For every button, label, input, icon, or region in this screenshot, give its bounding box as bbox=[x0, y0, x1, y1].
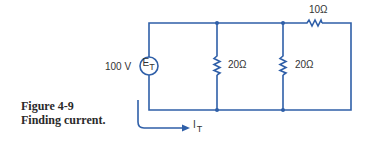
junction-dot-bottom-2 bbox=[281, 108, 285, 112]
current-label: IT bbox=[193, 119, 203, 134]
figure-caption: Figure 4-9 Finding current. bbox=[21, 99, 105, 127]
source-symbol: ET bbox=[143, 57, 156, 72]
resistor-r2-symbol bbox=[280, 54, 286, 75]
resistor-r1-symbol bbox=[214, 54, 220, 75]
resistor-r3-label: 10Ω bbox=[309, 4, 328, 15]
junction-dot-top-1 bbox=[215, 21, 219, 25]
junction-dot-top-2 bbox=[281, 21, 285, 25]
resistor-r1-label: 20Ω bbox=[228, 59, 247, 70]
current-arrow-path bbox=[138, 100, 183, 128]
current-arrow-head-icon bbox=[182, 125, 190, 132]
figure-title: Finding current. bbox=[21, 113, 105, 127]
resistor-r2-label: 20Ω bbox=[295, 59, 314, 70]
wire-left-bottom bbox=[149, 23, 351, 110]
wire-left-top bbox=[149, 23, 305, 57]
source-value-label: 100 V bbox=[105, 61, 131, 72]
figure-number: Figure 4-9 bbox=[21, 99, 105, 113]
resistor-r3-symbol bbox=[305, 20, 322, 26]
junction-dot-bottom-1 bbox=[215, 108, 219, 112]
